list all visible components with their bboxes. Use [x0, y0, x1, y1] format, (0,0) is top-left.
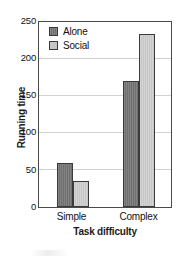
y-tick-label-100: 100 [10, 127, 36, 137]
y-tick-label-150: 150 [10, 90, 36, 100]
x-axis-tick-labels: Simple Complex [38, 211, 172, 225]
page-edge-artifact [30, 250, 90, 256]
bar-complex-social [139, 34, 155, 207]
legend-label-social: Social [63, 40, 89, 51]
bar-simple-alone [57, 163, 73, 207]
bar-complex-alone [123, 81, 139, 207]
legend-label-alone: Alone [63, 26, 88, 37]
bar-chart-figure: Running time 250 200 150 100 50 0 Alone … [0, 0, 184, 258]
legend-swatch-social-icon [49, 41, 58, 50]
x-axis-title: Task difficulty [38, 226, 172, 237]
chart-legend: Alone Social [49, 25, 111, 53]
y-axis-tick-labels: 250 200 150 100 50 0 [8, 0, 36, 258]
legend-item-alone: Alone [49, 25, 111, 38]
plot-area: Alone Social [38, 21, 172, 208]
y-tick-label-200: 200 [10, 53, 36, 63]
y-tick-label-0: 0 [10, 202, 36, 212]
legend-swatch-alone-icon [49, 27, 58, 36]
x-tick-label-complex: Complex [105, 211, 172, 223]
y-tick-label-50: 50 [10, 165, 36, 175]
x-tick-label-simple: Simple [38, 211, 105, 223]
bar-simple-social [73, 181, 89, 207]
y-tick-label-250: 250 [10, 16, 36, 26]
legend-item-social: Social [49, 39, 111, 52]
